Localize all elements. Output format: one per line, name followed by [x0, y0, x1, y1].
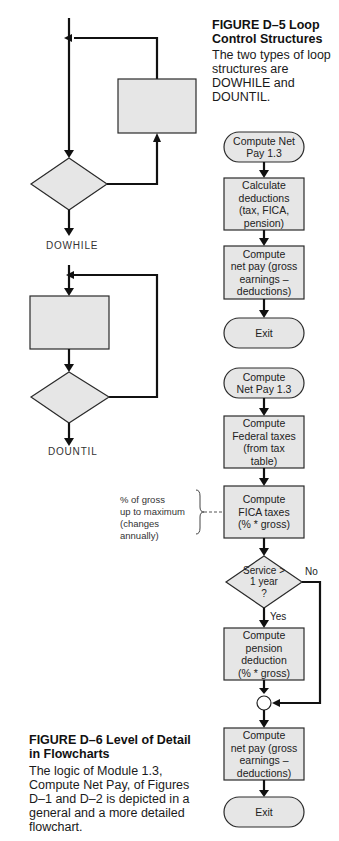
figure-d5-title-line2: Control Structures — [212, 32, 322, 46]
figure-d6-title-line2: in Flowcharts — [29, 747, 110, 761]
yes-branch-label: Yes — [270, 611, 286, 622]
detailed-pension-node: Compute pension deduction (% * gross) — [224, 628, 304, 680]
detailed-service-decision: Service > 1 year ? — [230, 562, 298, 602]
dountil-label: DOUNTIL — [48, 446, 98, 457]
dountil-process-box — [30, 296, 109, 349]
general-compute-net-pay-node: Compute net pay (gross earnings – deduct… — [224, 246, 304, 299]
dowhile-diagram — [31, 18, 196, 236]
general-start-node: Compute Net Pay 1.3 — [224, 132, 304, 162]
connector-circle — [257, 696, 271, 710]
dountil-diagram — [30, 265, 157, 446]
no-branch-label: No — [305, 566, 318, 577]
figure-d6-title-line1: FIGURE D–6 Level of Detail — [29, 733, 191, 747]
figure-d5-body: The two types of loop structures are DOW… — [212, 48, 337, 104]
detailed-federal-taxes-node: Compute Federal taxes (from tax table) — [224, 416, 304, 468]
general-flowchart — [224, 132, 304, 348]
dowhile-decision-diamond — [31, 158, 107, 210]
dowhile-label: DOWHILE — [46, 240, 98, 251]
detailed-fica-taxes-node: Compute FICA taxes (% * gross) — [224, 486, 304, 538]
general-exit-node: Exit — [224, 318, 304, 348]
detailed-start-node: Compute Net Pay 1.3 — [224, 368, 304, 398]
dowhile-process-box — [118, 79, 196, 133]
dountil-decision-diamond — [31, 372, 109, 423]
fica-annotation: % of gross up to maximum (changes annual… — [120, 494, 198, 542]
figure-d6-body: The logic of Module 1.3, Compute Net Pay… — [29, 764, 207, 834]
detailed-exit-node: Exit — [224, 797, 304, 827]
figure-d5-title-line1: FIGURE D–5 Loop — [212, 18, 320, 32]
detailed-compute-net-pay-node: Compute net pay (gross earnings – deduct… — [224, 728, 304, 780]
general-calc-deductions-node: Calculate deductions (tax, FICA, pension… — [224, 178, 304, 230]
